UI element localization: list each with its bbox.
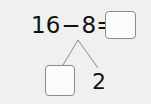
branch-right-line (78, 40, 98, 68)
branch-left-line (63, 40, 78, 65)
split-part-box[interactable] (45, 65, 75, 96)
split-part-known: 2 (92, 69, 106, 95)
worksheet-canvas: 16−8= 2 (0, 0, 151, 104)
number-bond-lines (0, 0, 151, 104)
